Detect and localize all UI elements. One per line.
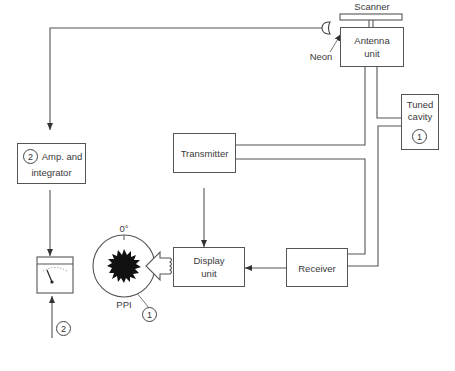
tuned-cavity-number: 1 — [412, 129, 427, 144]
meter-number: 2 — [56, 321, 71, 336]
scanner-bar — [340, 14, 402, 20]
amp-label-1: Amp. and — [40, 150, 84, 163]
display-unit-block: Display unit — [173, 247, 245, 287]
amp-integrator-block: 2 Amp. and integrator — [17, 143, 86, 184]
amp-number: 2 — [23, 149, 38, 164]
transmitter-label: Transmitter — [174, 147, 235, 160]
ppi-label: PPI — [108, 298, 140, 311]
scanner-label: Scanner — [346, 0, 398, 13]
receiver-label: Receiver — [287, 262, 347, 275]
antenna-label-1: Antenna — [341, 34, 403, 47]
neon-label: Neon — [301, 50, 341, 63]
meter-icon — [37, 257, 73, 293]
neon-lamp-icon — [322, 22, 330, 34]
display-label-1: Display — [174, 254, 244, 267]
antenna-unit-block: Antenna unit — [340, 27, 404, 67]
amp-label-2: integrator — [18, 166, 85, 179]
tuned-label-2: cavity — [402, 110, 438, 123]
ppi-number: 1 — [142, 307, 157, 322]
tuned-cavity-block: Tuned cavity 1 — [401, 94, 439, 150]
antenna-label-2: unit — [341, 47, 403, 60]
zero-degree-label: 0° — [112, 222, 136, 235]
transmitter-block: Transmitter — [173, 133, 236, 173]
display-label-2: unit — [174, 267, 244, 280]
receiver-block: Receiver — [286, 248, 348, 287]
